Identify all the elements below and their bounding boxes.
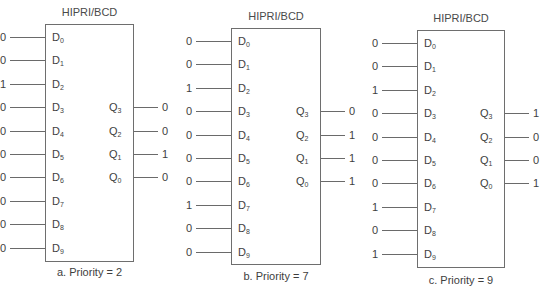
pin-subscript: 1 bbox=[432, 66, 436, 73]
pin-subscript: 7 bbox=[60, 201, 64, 208]
pin-subscript: 0 bbox=[60, 37, 64, 44]
pin-subscript: 4 bbox=[432, 137, 436, 144]
input-wire bbox=[10, 224, 45, 225]
input-value: 0 bbox=[186, 129, 192, 141]
input-wire bbox=[196, 135, 231, 136]
input-pin-label: D0 bbox=[424, 37, 436, 53]
pin-subscript: 2 bbox=[60, 84, 64, 91]
pin-name: D bbox=[52, 148, 60, 160]
pin-subscript: 5 bbox=[246, 158, 250, 165]
output-pin-label: Q2 bbox=[296, 129, 308, 145]
pin-name: D bbox=[52, 195, 60, 207]
output-wire bbox=[321, 181, 345, 182]
input-value: 1 bbox=[186, 199, 192, 211]
input-wire bbox=[196, 41, 231, 42]
pin-subscript: 1 bbox=[489, 160, 493, 167]
input-value: 0 bbox=[186, 105, 192, 117]
pin-name: D bbox=[238, 58, 246, 70]
input-pin-label: D1 bbox=[424, 60, 436, 76]
pin-subscript: 9 bbox=[432, 254, 436, 261]
pin-name: D bbox=[52, 242, 60, 254]
output-pin-label: Q0 bbox=[109, 171, 121, 187]
input-wire bbox=[196, 111, 231, 112]
pin-name: D bbox=[424, 60, 432, 72]
output-wire bbox=[321, 111, 345, 112]
pin-name: D bbox=[238, 129, 246, 141]
pin-name: D bbox=[52, 78, 60, 90]
input-pin-label: D3 bbox=[238, 105, 250, 121]
pin-subscript: 5 bbox=[432, 160, 436, 167]
pin-subscript: 3 bbox=[305, 111, 309, 118]
output-wire bbox=[505, 160, 529, 161]
pin-name: Q bbox=[296, 152, 305, 164]
input-wire bbox=[10, 177, 45, 178]
pin-name: Q bbox=[109, 148, 118, 160]
input-pin-label: D5 bbox=[238, 152, 250, 168]
pin-subscript: 2 bbox=[118, 131, 122, 138]
output-pin-label: Q2 bbox=[109, 125, 121, 141]
pin-name: D bbox=[238, 175, 246, 187]
output-pin-label: Q3 bbox=[296, 105, 308, 121]
output-value: 0 bbox=[533, 131, 539, 143]
pin-subscript: 1 bbox=[246, 64, 250, 71]
pin-subscript: 3 bbox=[118, 107, 122, 114]
input-value: 1 bbox=[372, 248, 378, 260]
pin-name: D bbox=[52, 125, 60, 137]
input-value: 0 bbox=[0, 31, 6, 43]
pin-subscript: 7 bbox=[432, 207, 436, 214]
input-wire bbox=[382, 137, 417, 138]
pin-name: D bbox=[238, 222, 246, 234]
output-pin-label: Q0 bbox=[296, 175, 308, 191]
input-value: 0 bbox=[372, 60, 378, 72]
pin-name: D bbox=[238, 82, 246, 94]
input-value: 0 bbox=[186, 152, 192, 164]
pin-name: D bbox=[52, 31, 60, 43]
input-pin-label: D8 bbox=[238, 222, 250, 238]
input-wire bbox=[196, 228, 231, 229]
input-value: 0 bbox=[186, 58, 192, 70]
pin-subscript: 5 bbox=[60, 154, 64, 161]
input-pin-label: D0 bbox=[52, 31, 64, 47]
output-value: 1 bbox=[533, 177, 539, 189]
pin-subscript: 3 bbox=[60, 107, 64, 114]
input-wire bbox=[196, 158, 231, 159]
pin-subscript: 0 bbox=[432, 43, 436, 50]
input-value: 0 bbox=[372, 177, 378, 189]
pin-name: Q bbox=[480, 154, 489, 166]
input-wire bbox=[196, 205, 231, 206]
input-value: 0 bbox=[186, 222, 192, 234]
output-pin-label: Q1 bbox=[480, 154, 492, 170]
output-value: 0 bbox=[349, 105, 355, 117]
input-wire bbox=[196, 64, 231, 65]
pin-subscript: 3 bbox=[432, 113, 436, 120]
pin-subscript: 4 bbox=[246, 135, 250, 142]
input-pin-label: D9 bbox=[424, 248, 436, 264]
pin-subscript: 3 bbox=[489, 113, 493, 120]
output-wire bbox=[505, 137, 529, 138]
output-pin-label: Q1 bbox=[109, 148, 121, 164]
input-value: 0 bbox=[372, 107, 378, 119]
pin-subscript: 0 bbox=[305, 181, 309, 188]
input-value: 0 bbox=[372, 154, 378, 166]
output-value: 0 bbox=[162, 125, 168, 137]
input-wire bbox=[10, 60, 45, 61]
input-wire bbox=[10, 131, 45, 132]
pin-name: Q bbox=[296, 129, 305, 141]
input-pin-label: D6 bbox=[424, 177, 436, 193]
output-wire bbox=[134, 154, 158, 155]
pin-subscript: 8 bbox=[246, 228, 250, 235]
input-pin-label: D7 bbox=[238, 199, 250, 215]
input-wire bbox=[382, 230, 417, 231]
input-wire bbox=[196, 181, 231, 182]
input-pin-label: D3 bbox=[52, 101, 64, 117]
output-pin-label: Q1 bbox=[296, 152, 308, 168]
pin-subscript: 2 bbox=[489, 137, 493, 144]
pin-name: D bbox=[424, 84, 432, 96]
pin-name: D bbox=[52, 171, 60, 183]
input-pin-label: D2 bbox=[238, 82, 250, 98]
input-pin-label: D5 bbox=[52, 148, 64, 164]
input-pin-label: D6 bbox=[238, 175, 250, 191]
input-value: 1 bbox=[372, 84, 378, 96]
input-wire bbox=[382, 207, 417, 208]
output-value: 0 bbox=[162, 101, 168, 113]
